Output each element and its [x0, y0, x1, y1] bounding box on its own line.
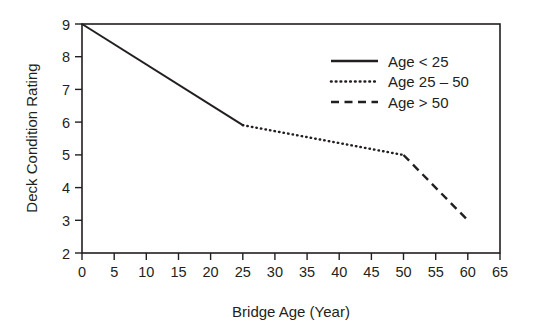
y-axis-ticks: [75, 24, 82, 253]
y-tick-label-5: 5: [62, 147, 70, 163]
x-tick-label-35: 35: [299, 264, 315, 280]
y-tick-label-3: 3: [62, 213, 70, 229]
y-tick-label-7: 7: [62, 82, 70, 98]
x-tick-label-40: 40: [331, 264, 347, 280]
x-tick-label-60: 60: [460, 264, 476, 280]
y-tick-label-9: 9: [62, 17, 70, 33]
x-tick-label-50: 50: [395, 264, 411, 280]
x-tick-label-30: 30: [267, 264, 283, 280]
y-axis-title: Deck Condition Rating: [23, 63, 40, 212]
x-tick-label-0: 0: [78, 264, 86, 280]
x-tick-label-15: 15: [170, 264, 186, 280]
y-tick-label-4: 4: [62, 180, 70, 196]
y-tick-label-8: 8: [62, 49, 70, 65]
x-axis-ticks: [82, 253, 500, 260]
x-axis-tick-labels: 0 5 10 15 20 25 30 35 40 45 50 55 60 65: [78, 264, 508, 280]
series-line-age-under-25: [82, 24, 243, 125]
x-tick-label-55: 55: [428, 264, 444, 280]
x-tick-label-5: 5: [110, 264, 118, 280]
legend-label-age-under-25: Age < 25: [388, 53, 448, 70]
chart-legend: Age < 25 Age 25 – 50 Age > 50: [331, 53, 469, 111]
x-tick-label-25: 25: [235, 264, 251, 280]
x-tick-label-20: 20: [203, 264, 219, 280]
x-tick-label-10: 10: [138, 264, 154, 280]
series-line-age-over-50: [404, 155, 468, 220]
chart-figure: 9 8 7 6 5 4 3 2 0: [0, 0, 534, 336]
y-axis-tick-labels: 9 8 7 6 5 4 3 2: [62, 17, 70, 262]
legend-label-age-over-50: Age > 50: [388, 94, 448, 111]
y-tick-label-6: 6: [62, 115, 70, 131]
series-line-age-25-50: [243, 125, 404, 155]
x-axis-title: Bridge Age (Year): [232, 303, 350, 320]
legend-label-age-25-50: Age 25 – 50: [388, 73, 469, 90]
deck-condition-rating-line-chart: 9 8 7 6 5 4 3 2 0: [0, 0, 534, 336]
x-tick-label-65: 65: [492, 264, 508, 280]
y-tick-label-2: 2: [62, 246, 70, 262]
x-tick-label-45: 45: [363, 264, 379, 280]
